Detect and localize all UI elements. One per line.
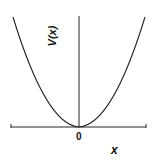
y-axis-label: V(x) — [46, 26, 58, 47]
x-axis-label: x — [111, 143, 118, 157]
origin-label: 0 — [76, 131, 82, 142]
